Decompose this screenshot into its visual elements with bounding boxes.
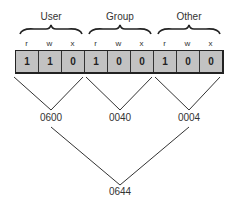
bit-cell: 0 xyxy=(177,51,200,72)
diagram-lines xyxy=(0,0,237,205)
bit-cell: 0 xyxy=(200,51,222,72)
octal-user: 0600 xyxy=(31,112,71,123)
perm-label: w xyxy=(107,39,130,48)
perm-label: x xyxy=(130,39,153,48)
perm-label: w xyxy=(38,39,61,48)
bit-cell: 1 xyxy=(16,51,39,72)
bit-cell: 0 xyxy=(62,51,85,72)
perm-label: r xyxy=(153,39,176,48)
perm-label: r xyxy=(15,39,38,48)
bit-cell: 0 xyxy=(131,51,154,72)
octal-group: 0040 xyxy=(100,112,140,123)
perm-label: r xyxy=(84,39,107,48)
bit-cells: 1 1 0 1 0 0 1 0 0 xyxy=(15,50,224,74)
group-label-group: Group xyxy=(85,11,155,22)
bit-cell: 1 xyxy=(85,51,108,72)
bit-cell: 1 xyxy=(154,51,177,72)
octal-other: 0004 xyxy=(169,112,209,123)
bit-cell: 0 xyxy=(108,51,131,72)
perm-label: w xyxy=(176,39,199,48)
bit-cell: 1 xyxy=(39,51,62,72)
perm-label: x xyxy=(61,39,84,48)
perm-label: x xyxy=(199,39,222,48)
octal-total: 0644 xyxy=(100,186,140,197)
group-label-other: Other xyxy=(154,11,224,22)
group-label-user: User xyxy=(16,11,86,22)
